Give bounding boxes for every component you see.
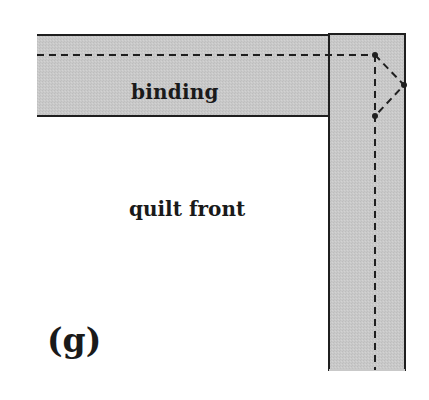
vertical-binding-strip [329,34,405,370]
binding-label: binding [131,82,219,102]
pivot-dot-bottom [372,113,378,119]
step-label: (g) [47,324,101,357]
quilt-binding-diagram: binding quilt front (g) [0,0,429,400]
pivot-dot-top [372,52,378,58]
quilt-front-label: quilt front [129,199,245,219]
pivot-dot-right [401,82,407,88]
